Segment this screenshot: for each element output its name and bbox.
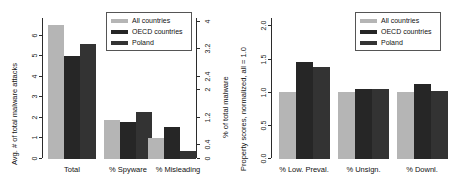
y-axis-spine-right-panel [271,18,272,158]
y-tick-right-12 [197,117,200,118]
bar-total-oecd [64,56,80,159]
y-axis-left-spine [42,18,43,158]
x-category-label-downl: % Downl. [394,166,450,174]
y-ticklabel-left-2: 2 [31,112,38,124]
y-ticklabel-left-4: 4 [31,71,38,83]
y-tick-rp-15 [268,59,271,60]
bar-spyware-oecd [120,122,136,159]
bar-downl-all [397,92,414,159]
y-tick-rp-00 [268,158,271,159]
y-ticklabel-right-24: 2.4 [204,69,211,85]
y-tick-rp-20 [268,25,271,26]
x-category-label-low-preval: % Low. Preval. [273,166,335,174]
bar-downl-poland [431,91,448,159]
legend-item-oecd-countries: OECD countries [111,27,187,36]
bar-misleading-oecd [164,127,180,159]
legend-item-all-countries: All countries [360,16,436,25]
y-ticklabel-rp-00: 0.0 [260,150,267,168]
y-ticklabel-right-04: 0.4 [204,137,211,153]
chart-panel-right: Property scores, normalized, all = 1.0 0… [229,0,459,188]
bar-spyware-all [104,120,120,159]
legend-label-oecd-countries: OECD countries [132,28,183,36]
legend-left-panel: All countries OECD countries Poland [106,12,192,51]
legend-right-panel: All countries OECD countries Poland [355,12,441,51]
bar-misleading-all [148,138,164,159]
y-ticklabel-rp-20: 2.0 [260,17,267,35]
y-axis-title-left: Avg. # of total malware attacks [11,63,19,165]
bar-unsign-oecd [355,89,372,159]
y-tick-left-1 [39,137,42,138]
chart-panel-left: Avg. # of total malware attacks % of tot… [0,0,229,188]
figure-root: Avg. # of total malware attacks % of tot… [0,0,459,188]
y-ticklabel-right-2: 2 [204,84,211,96]
y-tick-right-24 [197,76,200,77]
bar-total-poland [80,44,96,159]
bar-unsign-all [338,92,355,159]
y-tick-right-32 [197,48,200,49]
legend-swatch-poland [360,41,377,45]
y-tick-left-0 [39,158,42,159]
y-tick-left-2 [39,117,42,118]
bar-unsign-poland [372,89,389,159]
legend-swatch-poland [111,41,128,45]
x-category-label-misleading: % Misleading [146,166,210,174]
legend-item-all-countries: All countries [111,16,187,25]
y-ticklabel-right-32: 3.2 [204,41,211,57]
y-ticklabel-right-0: 0 [204,153,211,165]
y-tick-right-04 [197,144,200,145]
bar-lowpreval-poland [313,67,330,159]
bar-lowpreval-oecd [296,62,313,159]
legend-item-oecd-countries: OECD countries [360,27,436,36]
bar-downl-oecd [414,84,431,159]
y-tick-left-6 [39,35,42,36]
legend-item-poland: Poland [111,38,187,47]
y-tick-right-4 [197,21,200,22]
legend-swatch-oecd-countries [360,30,377,34]
y-ticklabel-left-1: 1 [31,132,38,144]
y-axis-right-spine [196,18,197,158]
legend-label-poland: Poland [381,39,403,47]
y-ticklabel-left-3: 3 [31,91,38,103]
y-tick-rp-05 [268,125,271,126]
y-tick-rp-10 [268,92,271,93]
y-tick-left-3 [39,96,42,97]
legend-swatch-all-countries [111,19,128,23]
legend-swatch-oecd-countries [111,30,128,34]
y-tick-left-5 [39,55,42,56]
y-tick-right-2 [197,89,200,90]
legend-swatch-all-countries [360,19,377,23]
y-ticklabel-rp-10: 1.0 [260,84,267,102]
legend-label-all-countries: All countries [381,17,419,25]
y-tick-right-0 [197,158,200,159]
legend-label-oecd-countries: OECD countries [381,28,432,36]
y-ticklabel-rp-15: 1.5 [260,51,267,69]
legend-item-poland: Poland [360,38,436,47]
bar-lowpreval-all [279,92,296,159]
y-ticklabel-right-4: 4 [204,16,211,28]
x-category-label-unsign: % Unsign. [336,166,391,174]
legend-label-poland: Poland [132,39,154,47]
bar-total-all [48,25,64,159]
legend-label-all-countries: All countries [132,17,170,25]
y-ticklabel-left-0: 0 [31,153,38,165]
x-category-label-total: Total [48,166,96,174]
y-axis-title-right-panel: Property scores, normalized, all = 1.0 [240,47,248,171]
y-ticklabel-rp-05: 0.5 [260,117,267,135]
y-tick-left-4 [39,76,42,77]
y-ticklabel-left-6: 6 [31,30,38,42]
y-ticklabel-right-12: 1.2 [204,110,211,126]
y-ticklabel-left-5: 5 [31,50,38,62]
bar-misleading-poland [180,151,196,159]
